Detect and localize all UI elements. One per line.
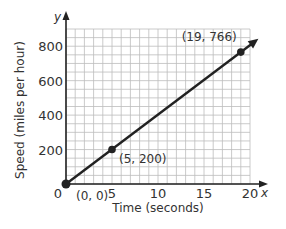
x-tick-label: 0 [54, 186, 62, 201]
data-point [108, 146, 116, 154]
x-axis-label: Time (seconds) [111, 201, 204, 215]
x-tick-label: 10 [150, 186, 167, 201]
data-points: (0, 0)(5, 200)(19, 766) [62, 30, 245, 203]
data-point [237, 48, 245, 56]
y-tick-label: 200 [38, 143, 63, 158]
y-axis-label: Speed (miles per hour) [13, 41, 27, 179]
x-tick-label: 15 [196, 186, 213, 201]
point-label: (5, 200) [119, 152, 167, 166]
data-point [62, 180, 71, 189]
y-axis-variable: y [53, 10, 62, 24]
y-tick-label: 600 [38, 74, 63, 89]
x-tick-label: 5 [108, 186, 116, 201]
point-label: (0, 0) [76, 189, 108, 203]
y-tick-label: 800 [38, 39, 63, 54]
speed-time-chart: 05101520200400600800 (0, 0)(5, 200)(19, … [0, 0, 286, 229]
x-axis-variable: x [260, 186, 269, 200]
x-tick-label: 20 [242, 186, 259, 201]
y-tick-label: 400 [38, 108, 63, 123]
y-axis-arrow-icon [63, 11, 70, 20]
point-label: (19, 766) [182, 30, 237, 44]
